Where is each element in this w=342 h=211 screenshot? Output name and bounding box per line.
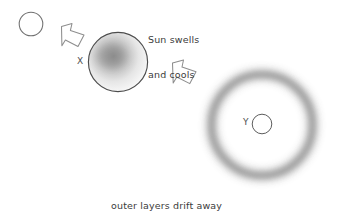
marker-label-x: X	[77, 57, 83, 66]
stellar-evolution-diagram: Sun swells and cools outer layers drift …	[0, 0, 342, 211]
caption-sun-swells-line1: Sun swells	[148, 34, 199, 46]
caption-outer-layers-line1: outer layers drift away	[111, 200, 238, 211]
present-sun-icon	[19, 12, 43, 36]
caption-sun-swells-line2: and cools	[148, 69, 199, 81]
arrow-sun-to-swollen-icon	[62, 24, 85, 47]
caption-outer-layers: outer layers drift away exposing a white…	[111, 177, 238, 211]
caption-sun-swells: Sun swells and cools	[148, 11, 199, 103]
marker-label-y: Y	[243, 118, 249, 127]
white-dwarf-icon	[252, 114, 272, 134]
swollen-sun-icon	[88, 32, 147, 91]
